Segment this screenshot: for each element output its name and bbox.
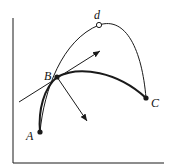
normal-arrow [57, 77, 87, 121]
label-c: C [151, 96, 160, 110]
label-b: B [44, 69, 52, 83]
curve-via-b [40, 71, 146, 132]
point-b [54, 74, 59, 79]
label-d: d [94, 8, 101, 22]
diagram-canvas: A B C d [0, 0, 177, 168]
point-d [96, 22, 101, 27]
label-a: A [25, 129, 34, 143]
point-c [143, 95, 148, 100]
point-a [37, 129, 42, 134]
